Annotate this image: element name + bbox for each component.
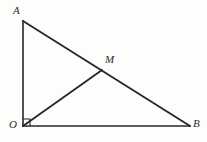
segment-ab [23,21,190,126]
geometry-figure: A M O B [0,0,207,142]
figure-canvas [0,0,207,142]
triangle-edges [23,21,190,126]
cevian [23,70,102,126]
vertex-label-a: A [13,5,20,16]
vertex-label-b: B [193,118,200,129]
vertex-label-o: O [9,119,17,130]
segment-om [23,70,102,126]
vertex-label-m: M [105,54,114,65]
